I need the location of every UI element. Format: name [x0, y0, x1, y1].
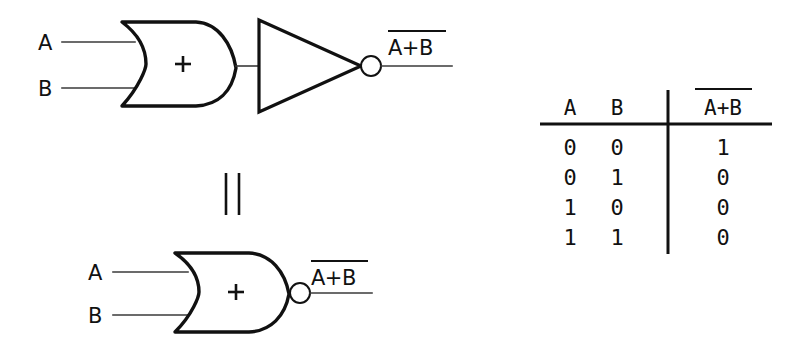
equivalence-symbol	[226, 173, 239, 215]
table-row: 1 0 0	[563, 195, 729, 220]
truth-table: A B A+B 0 0 1 0 1 0	[540, 89, 772, 254]
logic-diagram: A B A+B	[0, 0, 804, 364]
truth-table-cell-out: 0	[716, 165, 729, 190]
truth-table-cell-out: 0	[716, 225, 729, 250]
bottom-input-b-label: B	[88, 304, 102, 328]
table-row: 0 1 0	[563, 165, 729, 190]
table-row: 0 0 1	[563, 135, 729, 160]
top-output-label-group: A+B	[388, 31, 446, 60]
bottom-output-label: A+B	[311, 266, 356, 290]
inverter-triangle	[259, 20, 361, 112]
truth-table-header-a: A	[564, 96, 577, 120]
truth-table-cell-b: 0	[610, 135, 623, 160]
top-input-a-label: A	[38, 31, 53, 55]
truth-table-header-out-group: A+B	[695, 89, 752, 120]
table-row: 1 1 0	[563, 225, 729, 250]
truth-table-header-b: B	[611, 96, 624, 120]
truth-table-header-out: A+B	[704, 96, 742, 120]
figure-canvas: A B A+B	[0, 0, 804, 364]
bottom-circuit: A B A+B	[88, 253, 372, 332]
top-circuit: A B A+B	[38, 20, 452, 112]
truth-table-cell-a: 1	[563, 195, 576, 220]
truth-table-cell-b: 1	[610, 225, 623, 250]
bottom-output-label-group: A+B	[311, 261, 368, 290]
truth-table-cell-a: 1	[563, 225, 576, 250]
truth-table-cell-a: 0	[563, 135, 576, 160]
truth-table-cell-out: 1	[716, 135, 729, 160]
truth-table-cell-a: 0	[563, 165, 576, 190]
inverter-bubble	[361, 56, 381, 76]
bottom-input-a-label: A	[88, 261, 103, 285]
truth-table-cell-b: 1	[610, 165, 623, 190]
truth-table-cell-b: 0	[610, 195, 623, 220]
truth-table-cell-out: 0	[716, 195, 729, 220]
top-input-b-label: B	[38, 77, 52, 101]
nor-bubble	[290, 283, 310, 303]
top-output-label: A+B	[388, 36, 433, 60]
